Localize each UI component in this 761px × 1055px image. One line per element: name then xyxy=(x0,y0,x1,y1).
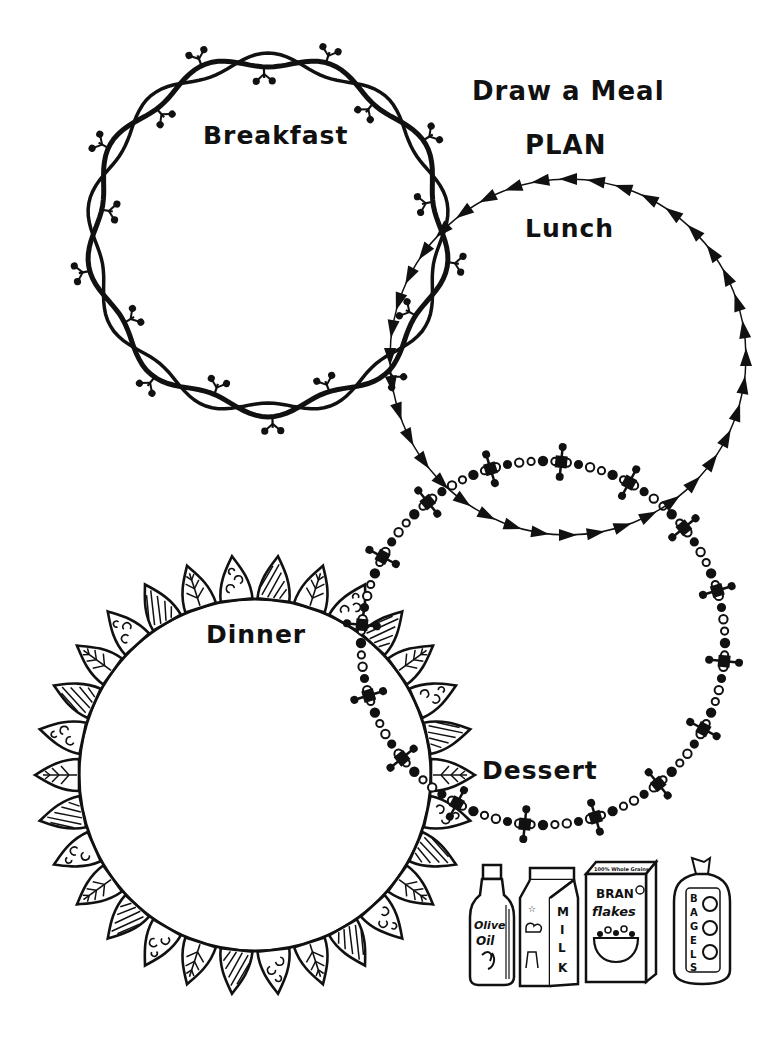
svg-text:S: S xyxy=(690,962,697,973)
svg-text:100% Whole Grains: 100% Whole Grains xyxy=(594,866,649,872)
dinner-drawing-area[interactable] xyxy=(82,602,428,948)
meal-plan-worksheet: Olive Oil M I L K ☆ 100% Whole Grains BR… xyxy=(0,0,761,1055)
lunch-drawing-area[interactable] xyxy=(410,200,726,516)
svg-text:A: A xyxy=(690,907,698,918)
svg-text:Oil: Oil xyxy=(476,934,495,948)
svg-text:G: G xyxy=(690,921,698,932)
dinner-label: Dinner xyxy=(206,620,306,649)
svg-text:M: M xyxy=(557,905,569,919)
svg-text:K: K xyxy=(558,961,568,975)
svg-text:E: E xyxy=(690,935,697,946)
dessert-drawing-area[interactable] xyxy=(385,485,701,801)
lunch-label: Lunch xyxy=(525,214,614,243)
olive-oil-bottle-icon: Olive Oil xyxy=(470,865,514,985)
breakfast-label: Breakfast xyxy=(203,121,348,150)
worksheet-subtitle: PLAN xyxy=(525,130,607,160)
milk-carton-icon: M I L K ☆ xyxy=(520,868,578,986)
svg-text:L: L xyxy=(558,941,566,955)
svg-text:Olive: Olive xyxy=(474,919,506,932)
svg-text:B: B xyxy=(690,893,698,904)
bran-flakes-box-icon: 100% Whole Grains BRAN flakes xyxy=(586,862,656,982)
dessert-label: Dessert xyxy=(482,756,598,785)
svg-text:flakes: flakes xyxy=(592,904,636,919)
svg-text:☆: ☆ xyxy=(528,904,536,914)
svg-text:L: L xyxy=(690,949,697,960)
svg-text:BRAN: BRAN xyxy=(596,887,634,901)
worksheet-title: Draw a Meal xyxy=(472,76,665,106)
bagels-bag-icon: B A G E L S xyxy=(674,858,730,984)
svg-text:I: I xyxy=(560,923,564,937)
